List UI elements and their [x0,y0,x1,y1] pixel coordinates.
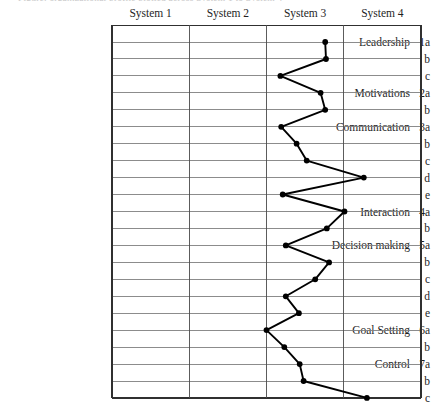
data-point-7b [301,378,307,384]
data-point-1a [322,39,328,45]
data-point-7a [297,361,303,367]
data-point-5a [283,243,289,249]
data-point-3e [280,192,286,198]
profile-markers [264,39,370,401]
data-point-2a [318,90,324,96]
data-point-4a [342,209,348,215]
profile-line [267,42,367,398]
data-point-3c [304,158,310,164]
data-point-5e [296,310,302,316]
plot-area [0,0,432,409]
data-point-3d [361,175,367,181]
data-point-5b [326,260,332,266]
data-point-6b [281,344,287,350]
data-point-3b [294,141,300,147]
data-point-6a [264,327,270,333]
data-point-4b [324,226,330,232]
data-point-3a [278,124,284,130]
system-profile-chart: Figure: organizational profile plotted a… [0,0,432,409]
data-point-2b [322,107,328,113]
data-point-7c [364,395,370,401]
data-point-1b [323,56,329,62]
data-point-5d [283,293,289,299]
data-point-5c [312,276,318,282]
data-point-1c [278,73,284,79]
